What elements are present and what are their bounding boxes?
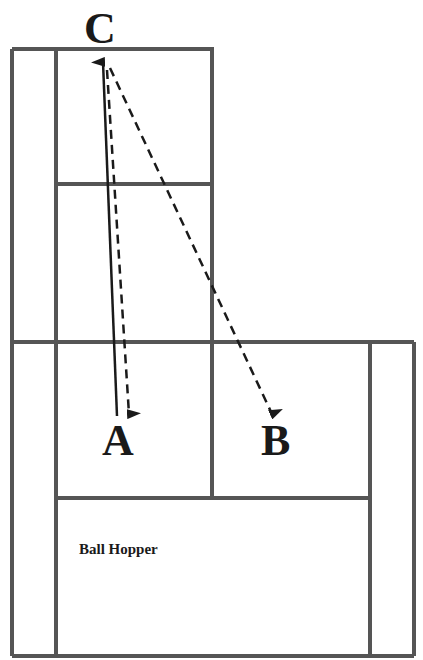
- shot-paths: [103, 62, 272, 416]
- label-c: C: [84, 4, 116, 53]
- court-lines: [12, 49, 414, 656]
- label-a: A: [102, 416, 134, 465]
- path-c-to-b-dashed: [110, 68, 272, 414]
- label-ball-hopper: Ball Hopper: [79, 541, 158, 557]
- label-b: B: [261, 416, 290, 465]
- tennis-drill-diagram: C A B Ball Hopper: [0, 0, 423, 660]
